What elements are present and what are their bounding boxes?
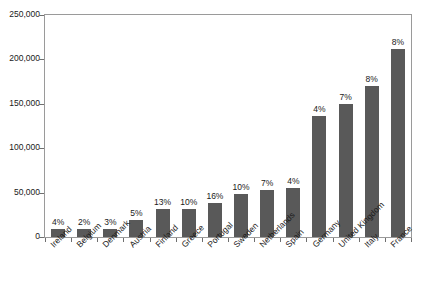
- x-tick-mark: [359, 238, 360, 242]
- bar: [391, 49, 405, 237]
- bar-slot: 13%: [150, 15, 176, 237]
- bar-value-label: 4%: [52, 218, 64, 227]
- x-tick-mark: [176, 238, 177, 242]
- x-tick-mark: [71, 238, 72, 242]
- y-tick-mark: [39, 148, 44, 149]
- bar-value-label: 10%: [180, 198, 197, 207]
- bar-value-label: 2%: [78, 218, 90, 227]
- y-tick-mark: [39, 15, 44, 16]
- y-tick-mark: [39, 193, 44, 194]
- y-tick-label: 150,000: [0, 99, 40, 108]
- x-tick-mark: [228, 238, 229, 242]
- y-tick-label: 250,000: [0, 10, 40, 19]
- bar-slot: 10%: [176, 15, 202, 237]
- x-axis-labels: IrelandBelgiumDenmarkAustriaFinlandGreec…: [45, 243, 411, 307]
- x-tick-mark: [123, 238, 124, 242]
- x-tick-mark: [280, 238, 281, 242]
- y-tick-label: 200,000: [0, 54, 40, 63]
- bar-value-label: 4%: [313, 105, 325, 114]
- y-tick-mark: [39, 104, 44, 105]
- bar-slot: 8%: [385, 15, 411, 237]
- bar-value-label: 3%: [104, 218, 116, 227]
- bar-value-label: 7%: [339, 93, 351, 102]
- x-tick-mark: [385, 238, 386, 242]
- bar-slot: 4%: [306, 15, 332, 237]
- bar-value-label: 8%: [366, 75, 378, 84]
- x-tick-mark: [202, 238, 203, 242]
- y-tick-label: 0: [0, 232, 40, 241]
- y-tick-label: 50,000: [0, 188, 40, 197]
- bar-value-label: 10%: [233, 183, 250, 192]
- bar: [312, 116, 326, 237]
- bar-slot: 4%: [45, 15, 71, 237]
- y-tick-mark: [39, 59, 44, 60]
- y-axis: 050,000100,000150,000200,000250,000: [0, 0, 40, 307]
- bar: [339, 104, 353, 237]
- bar-value-label: 5%: [130, 209, 142, 218]
- bar-slot: 5%: [123, 15, 149, 237]
- bar-slot: 3%: [97, 15, 123, 237]
- bar-value-label: 7%: [261, 179, 273, 188]
- x-tick-mark: [150, 238, 151, 242]
- bar-slot: 7%: [333, 15, 359, 237]
- bar-slot: 16%: [202, 15, 228, 237]
- bar-slot: 10%: [228, 15, 254, 237]
- x-tick-mark: [97, 238, 98, 242]
- x-tick-mark: [333, 238, 334, 242]
- x-tick-mark: [411, 238, 412, 242]
- bar-slot: 2%: [71, 15, 97, 237]
- bar-value-label: 4%: [287, 177, 299, 186]
- bars-layer: 4%2%3%5%13%10%16%10%7%4%4%7%8%8%: [45, 15, 411, 237]
- bar-value-label: 13%: [154, 198, 171, 207]
- bar-chart: 050,000100,000150,000200,000250,000 4%2%…: [0, 0, 424, 307]
- y-tick-mark: [39, 237, 44, 238]
- bar-slot: 7%: [254, 15, 280, 237]
- bar-slot: 4%: [280, 15, 306, 237]
- x-tick-mark: [45, 238, 46, 242]
- x-tick-mark: [254, 238, 255, 242]
- y-tick-label: 100,000: [0, 143, 40, 152]
- bar-value-label: 8%: [392, 38, 404, 47]
- x-tick-mark: [306, 238, 307, 242]
- bar-value-label: 16%: [206, 192, 223, 201]
